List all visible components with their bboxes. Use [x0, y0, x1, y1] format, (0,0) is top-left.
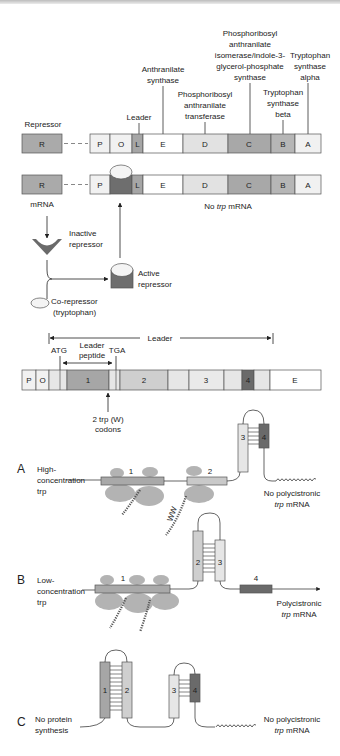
seg-o: O: [118, 140, 124, 149]
panel-c-hairpin-2: 2: [125, 686, 130, 695]
leader-map: Leader ATG Leader peptide TGA P O 1: [22, 333, 321, 434]
seg-d: D: [202, 140, 208, 149]
panel-a-cond-3: trp: [37, 487, 47, 496]
trp-codons-label-1: 2 trp (W): [92, 415, 123, 424]
panel-c-cond-2: synthesis: [35, 726, 68, 735]
seg-l: L: [135, 140, 140, 149]
panel-c-cond-1: No protein: [35, 715, 72, 724]
panel-a-ribosome-1: 1: [129, 467, 134, 476]
panel-c-letter: C: [17, 715, 26, 729]
trp-operon-diagram: Leader Anthranilate synthase Phosphoribo…: [0, 0, 340, 756]
label-repressor: Repressor: [25, 120, 62, 129]
tga-label: TGA: [109, 346, 126, 355]
panel-c-result-2: trp mRNA: [274, 726, 310, 735]
seg-p: P: [97, 140, 102, 149]
seg2-b: B: [280, 181, 285, 190]
panel-a-high-trp: A High- concentration trp 1 2 WW: [17, 410, 320, 535]
panel-a-cond-1: High-: [37, 465, 56, 474]
operon-row-1: [22, 134, 321, 153]
leader-seg-1: 1: [86, 376, 91, 385]
leader-seg-p: P: [26, 376, 31, 385]
panel-b-cond-3: trp: [37, 598, 47, 607]
panel-a-hairpin-3: 3: [241, 433, 246, 442]
seg-r: R: [39, 140, 45, 149]
label-transferase-3: transferase: [185, 112, 226, 121]
panel-b-cond-1: Low-: [37, 576, 55, 585]
label-anthranilate-synthase-2: synthase: [147, 76, 180, 85]
label-leader: Leader: [127, 113, 152, 122]
panel-b-letter: B: [17, 573, 25, 587]
panel-b-hairpin-3: 3: [218, 558, 223, 567]
inactive-repressor-label-1: Inactive: [69, 229, 97, 238]
trp-codons-label-2: codons: [95, 425, 121, 434]
panel-b-result-2: trp mRNA: [281, 610, 317, 619]
label-isomerase-4: glycerol-phosphate: [216, 62, 284, 71]
panel-b-ribosome-1: 1: [121, 574, 126, 583]
label-isomerase-2: anthranilate: [229, 40, 271, 49]
co-repressor-icon: [31, 298, 49, 308]
gene-labels: Leader Anthranilate synthase Phosphoribo…: [25, 29, 331, 134]
bound-repressor-top: [110, 165, 132, 179]
panel-a-letter: A: [17, 462, 25, 476]
seg2-r: R: [39, 181, 45, 190]
panel-c-hairpin-4: 4: [193, 686, 198, 695]
inactive-repressor-label-2: repressor: [69, 240, 103, 249]
panel-b-result-1: Polycistronic: [277, 599, 322, 608]
panel-c-no-synthesis: C No protein synthesis 1 2: [17, 650, 320, 735]
seg-c: C: [246, 140, 252, 149]
label-trp-synthase-beta-1: Tryptophan: [263, 88, 303, 97]
label-anthranilate-synthase-1: Anthranilate: [142, 65, 185, 74]
co-repressor-label-1: Co-repressor: [51, 297, 98, 306]
seg2-l: L: [135, 181, 140, 190]
panel-a-ww-label: WW: [165, 505, 179, 523]
panel-b-cond-2: concentration: [37, 587, 85, 596]
panel-a-ribosome-2: 2: [208, 467, 213, 476]
terminated-transcript-icon: [276, 478, 316, 481]
operon-row-2: [22, 165, 321, 194]
label-transferase-1: Phosphoribosyl: [178, 90, 233, 99]
label-trp-synthase-alpha-3: alpha: [300, 73, 320, 82]
label-isomerase-1: Phosphoribosyl: [223, 29, 278, 38]
seg2-c: C: [246, 181, 252, 190]
leader-seg-o: O: [39, 376, 45, 385]
no-trp-mrna-label: No trp mRNA: [204, 202, 252, 211]
leader-seg-e: E: [292, 376, 297, 385]
seg-b: B: [280, 140, 285, 149]
leader-seg-2: 2: [142, 376, 147, 385]
panel-a-result-2: trp mRNA: [274, 500, 310, 509]
panel-b-region-4: 4: [254, 574, 259, 583]
regulation-pathway: Inactive repressor Co-repressor (tryptop…: [31, 203, 172, 317]
label-trp-synthase-beta-2: synthase: [267, 99, 300, 108]
seg2-d: D: [202, 181, 208, 190]
panel-c-hairpin-3: 3: [172, 686, 177, 695]
label-transferase-2: anthranilate: [184, 101, 226, 110]
co-repressor-label-2: (tryptophan): [53, 308, 96, 317]
leader-span-label: Leader: [148, 334, 173, 343]
region-4-box: [240, 585, 272, 593]
label-trp-synthase-alpha-2: synthase: [294, 62, 327, 71]
atg-label: ATG: [51, 346, 67, 355]
leader-seg-3: 3: [204, 376, 209, 385]
label-isomerase-5: synthase: [234, 73, 267, 82]
panel-a-cond-2: concentration: [37, 476, 85, 485]
active-repressor-label-1: Active: [138, 269, 160, 278]
panel-c-hairpin-1: 1: [103, 686, 108, 695]
seg2-e: E: [160, 181, 165, 190]
seg2-a: A: [305, 181, 311, 190]
panel-c-result-1: No polycistronic: [264, 715, 320, 724]
leader-seg-4: 4: [246, 376, 251, 385]
seg2-p: P: [97, 181, 102, 190]
panel-b-hairpin-2: 2: [196, 558, 201, 567]
mrna-label: mRNA: [30, 200, 54, 209]
label-isomerase-3: isomerase/indole-3-: [215, 51, 286, 60]
active-repressor-label-2: repressor: [138, 280, 172, 289]
panel-a-hairpin-4: 4: [262, 433, 267, 442]
label-trp-synthase-alpha-1: Tryptophan: [290, 51, 330, 60]
terminated-transcript-icon-c: [216, 724, 256, 727]
panel-a-result-1: No polycistronic: [264, 489, 320, 498]
leader-peptide-label-2: peptide: [79, 351, 106, 360]
leader-peptide-label-1: Leader: [80, 341, 105, 350]
seg-a: A: [305, 140, 311, 149]
seg-e: E: [160, 140, 165, 149]
label-trp-synthase-beta-3: beta: [275, 110, 291, 119]
